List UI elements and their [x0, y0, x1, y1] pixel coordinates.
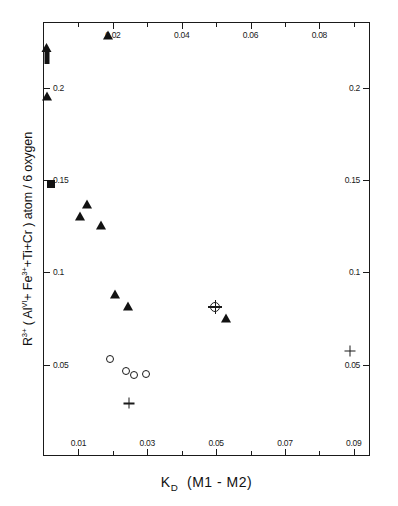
- scatter-plot-figure: R3+ ( AlVI+ Fe3++Ti+Cr ) atom / 6 oxygen…: [0, 0, 398, 506]
- x-tick-top-minor: [147, 23, 148, 27]
- y-title-al-superscript: VI: [20, 301, 29, 308]
- plot-area: 0.020.040.060.080.010.030.050.070.090.20…: [43, 22, 370, 456]
- y-tick-label-right: 0.1: [349, 268, 360, 277]
- x-tick-top: [251, 23, 252, 29]
- y-tick-label-left: 0.2: [53, 83, 64, 92]
- y-tick-right: [363, 365, 369, 366]
- x-tick-top-minor: [354, 23, 355, 27]
- x-tick-label-bottom: 0.07: [277, 439, 292, 448]
- data-point-circle: [142, 370, 150, 378]
- y-tick-label-right: 0.15: [345, 176, 360, 185]
- y-tick-right: [363, 272, 369, 273]
- y-tick-left: [44, 88, 50, 89]
- x-title-kd: K: [161, 474, 171, 490]
- x-tick-bottom: [354, 449, 355, 455]
- x-tick-top: [182, 23, 183, 29]
- x-title-rest: (M1 - M2): [187, 474, 252, 490]
- y-axis-title: R3+ ( AlVI+ Fe3++Ti+Cr ) atom / 6 oxygen: [20, 22, 42, 456]
- y-title-r: R: [21, 337, 35, 346]
- x-tick-top-minor: [78, 23, 79, 27]
- x-tick-bottom: [216, 449, 217, 455]
- x-tick-bottom-minor: [182, 451, 183, 455]
- x-tick-label-top: 0.06: [243, 31, 258, 40]
- x-tick-label-bottom: 0.05: [208, 439, 223, 448]
- x-tick-bottom-minor: [251, 451, 252, 455]
- data-point-triangle: [96, 221, 106, 230]
- x-tick-top: [319, 23, 320, 29]
- y-tick-label-right: 0.05: [345, 360, 360, 369]
- data-point-triangle: [75, 211, 85, 220]
- y-title-open-paren: ( Al: [21, 308, 35, 329]
- data-point-up-arrow: [41, 43, 52, 65]
- y-tick-left: [44, 365, 50, 366]
- x-tick-label-bottom: 0.03: [140, 439, 155, 448]
- y-tick-label-left: 0.1: [53, 268, 64, 277]
- data-point-triangle: [42, 91, 52, 100]
- x-tick-label-top: 0.04: [174, 31, 189, 40]
- x-tick-bottom-minor: [319, 451, 320, 455]
- y-tick-label-right: 0.2: [349, 83, 360, 92]
- y-tick-right: [363, 88, 369, 89]
- data-point-circle: [106, 355, 114, 363]
- x-tick-label-bottom: 0.09: [346, 439, 361, 448]
- y-title-fe-superscript: 3+: [20, 267, 29, 275]
- data-point-circle: [122, 367, 130, 375]
- data-point-plus: [344, 346, 355, 357]
- x-tick-top: [113, 23, 114, 29]
- x-title-subscript: D: [171, 482, 179, 493]
- x-tick-bottom: [285, 449, 286, 455]
- data-point-triangle: [123, 302, 133, 311]
- data-point-circle: [130, 371, 138, 379]
- data-point-triangle: [110, 290, 120, 299]
- x-tick-bottom: [147, 449, 148, 455]
- data-point-circle-plus: [210, 302, 220, 312]
- data-point-triangle: [221, 314, 231, 323]
- x-axis-title: KD (M1 - M2): [43, 474, 370, 493]
- y-tick-label-left: 0.05: [53, 360, 68, 369]
- x-tick-label-top: 0.08: [312, 31, 327, 40]
- x-tick-top-minor: [285, 23, 286, 27]
- x-tick-label-bottom: 0.01: [71, 439, 86, 448]
- x-tick-bottom: [78, 449, 79, 455]
- y-title-fe: + Fe: [21, 276, 35, 301]
- y-title-r-superscript: 3+: [20, 329, 29, 337]
- data-point-square: [47, 180, 55, 188]
- data-point-triangle: [103, 31, 113, 40]
- data-point-triangle: [82, 199, 92, 208]
- data-point-plus: [124, 398, 135, 409]
- x-tick-bottom-minor: [113, 451, 114, 455]
- y-tick-label-left: 0.15: [53, 176, 68, 185]
- y-tick-left: [44, 272, 50, 273]
- y-tick-right: [363, 180, 369, 181]
- x-tick-top-minor: [216, 23, 217, 27]
- y-title-tail: +Ti+Cr ) atom / 6 oxygen: [21, 132, 35, 267]
